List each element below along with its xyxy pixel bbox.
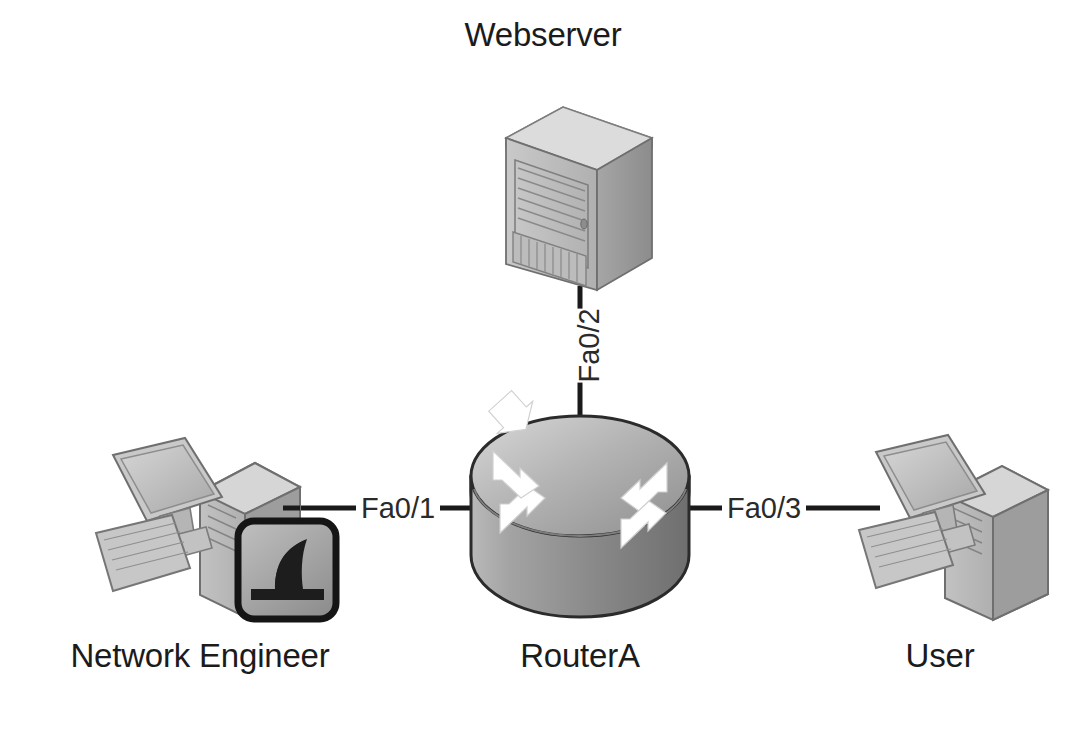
workstation-wireshark-icon[interactable] (96, 438, 336, 619)
node-label-webserver: Webserver (0, 16, 1086, 54)
link-label-fa0-3: Fa0/3 (722, 494, 806, 523)
wireshark-fin-icon[interactable] (238, 521, 336, 619)
cisco-router-icon[interactable] (471, 385, 689, 617)
node-label-routera: RouterA (440, 637, 720, 675)
topology-graphics (0, 0, 1086, 729)
node-label-network-engineer: Network Engineer (0, 637, 400, 675)
link-label-fa0-2: Fa0/2 (570, 308, 609, 382)
workstation-icon[interactable] (859, 435, 1048, 620)
link-label-fa0-1: Fa0/1 (356, 494, 440, 523)
node-label-user: User (840, 637, 1040, 675)
network-diagram-canvas: Webserver Network Engineer RouterA User … (0, 0, 1086, 729)
server-tower-icon[interactable] (506, 107, 652, 290)
